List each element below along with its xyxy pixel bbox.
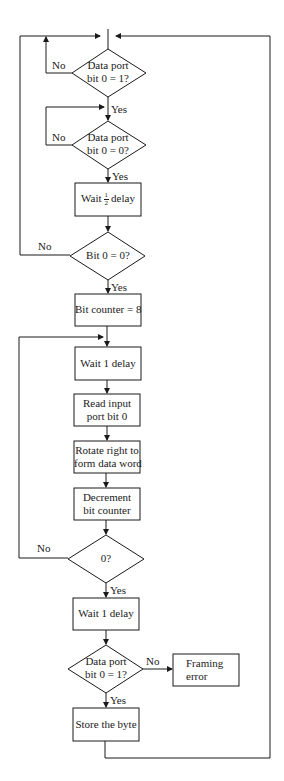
decision3-yes-label: Yes [111, 281, 127, 294]
decision1-line1: Data port [80, 59, 136, 72]
process-read-input: Read input port bit 0 [74, 397, 140, 423]
decrement-line1: Decrement [74, 491, 140, 504]
process-store-byte: Store the byte [73, 718, 139, 731]
process-decrement-counter: Decrement bit counter [74, 491, 140, 517]
read-input-line1: Read input [74, 397, 140, 410]
decision-data-port-bit0-eq0: Data port bit 0 = 0? [80, 131, 136, 157]
decision-data-port-bit0-eq1: Data port bit 0 = 1? [80, 59, 136, 85]
process-wait-one-delay-2: Wait 1 delay [73, 607, 139, 620]
process-framing-error: Framing error [186, 657, 223, 683]
framing-error-line2: error [186, 670, 223, 683]
decision1-no-label: No [52, 59, 65, 72]
decision5-yes-label: Yes [110, 694, 126, 707]
decision2-yes-label: Yes [112, 170, 128, 183]
decision2-line2: bit 0 = 0? [80, 144, 136, 157]
flowchart-lines [0, 0, 284, 781]
decision5-line2: bit 0 = 1? [77, 668, 135, 681]
process-rotate-right: Rotate right to form data word [74, 444, 140, 470]
process-wait-one-delay: Wait 1 delay [75, 357, 141, 370]
wait-half-suffix: delay [111, 192, 135, 204]
wait-half-prefix: Wait [81, 192, 102, 204]
decision3-no-label: No [38, 240, 51, 253]
decision4-yes-label: Yes [110, 584, 126, 597]
decision-bit0-eq0: Bit 0 = 0? [78, 249, 138, 262]
framing-error-line1: Framing [186, 657, 223, 670]
decision-stop-bit-check: Data port bit 0 = 1? [77, 655, 135, 681]
rotate-line2: form data word [74, 457, 140, 470]
read-input-line2: port bit 0 [74, 410, 140, 423]
process-wait-half-delay: Wait12delay [75, 192, 141, 207]
process-bit-counter: Bit counter = 8 [75, 303, 141, 316]
decision5-line1: Data port [77, 655, 135, 668]
decision-counter-zero: 0? [86, 552, 126, 565]
decision1-yes-label: Yes [111, 103, 127, 116]
rotate-line1: Rotate right to [74, 444, 140, 457]
decision4-no-label: No [37, 542, 50, 555]
decision5-no-label: No [146, 655, 159, 668]
decision1-line2: bit 0 = 1? [80, 72, 136, 85]
decision2-no-label: No [52, 131, 65, 144]
fraction-one-half: 12 [104, 192, 110, 207]
frac-den: 2 [104, 200, 110, 207]
decision2-line1: Data port [80, 131, 136, 144]
decrement-line2: bit counter [74, 504, 140, 517]
